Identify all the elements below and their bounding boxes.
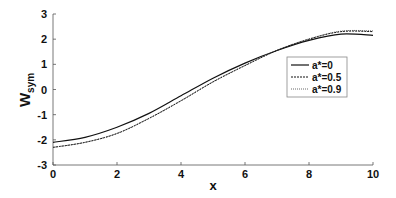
legend-label-1: a*=0.5 [312,72,342,83]
y-tick-label: -3 [37,159,47,171]
legend: a*=0 a*=0.5 a*=0.9 [287,57,347,97]
y-tick-label: -2 [37,134,47,146]
x-tick-label: 4 [178,168,185,180]
x-tick-label: 10 [367,168,379,180]
x-tick-label: 2 [114,168,120,180]
y-tick-label: 2 [41,33,47,45]
y-axis-title: Wsym [16,73,36,107]
x-tick-label: 0 [50,168,56,180]
x-axis-title: x [209,178,217,193]
legend-label-0: a*=0 [312,60,333,71]
y-tick-label: 0 [41,84,47,96]
x-tick-label: 8 [306,168,312,180]
y-axis-title-sub: sym [25,73,36,93]
y-tick-label: 1 [41,58,47,70]
y-tick-label: -1 [37,109,47,121]
svg-text:Wsym: Wsym [16,73,36,107]
line-chart: 0246810-3-2-10123 a*=0 a*=0.5 a*=0.9 x W… [0,0,396,198]
y-tick-label: 3 [41,8,47,20]
y-axis-title-main: W [16,92,33,107]
x-tick-label: 6 [242,168,248,180]
legend-label-2: a*=0.9 [312,84,342,95]
